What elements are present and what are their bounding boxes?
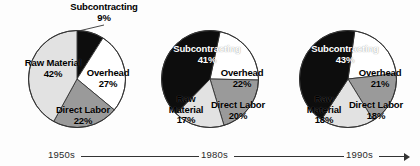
pie-1990s-svg [288,0,420,146]
era-label-1990s: 1990s [346,149,373,160]
subcontracting-leader-line [80,25,104,31]
timeline-segment-2 [234,156,344,157]
pie-chart-1990s: Subcontracting 43% Overhead 21% Direct L… [288,0,420,146]
timeline-segment-1 [81,156,199,157]
pie-chart-1980s: Subcontracting 41% Overhead 22% Direct L… [148,0,288,146]
era-label-1980s: 1980s [201,149,228,160]
pie-1980s-svg [148,0,288,146]
pie-chart-1950s: Subcontracting 9% Overhead 27% Direct La… [0,0,150,146]
era-timeline: 1950s 1980s 1990s [0,146,420,166]
pie-1950s-svg [0,0,150,146]
pie-slice-overhead [348,31,396,79]
cost-structure-pie-chart-figure: Subcontracting 9% Overhead 27% Direct La… [0,0,420,166]
era-label-1950s: 1950s [48,149,75,160]
timeline-arrowhead-icon [404,153,410,161]
timeline-segment-3 [379,156,406,157]
